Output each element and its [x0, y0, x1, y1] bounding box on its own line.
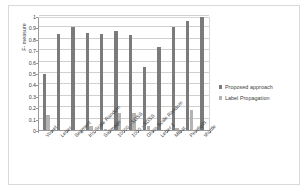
legend-swatch-icon	[219, 85, 222, 88]
bar-proposed-approach	[71, 27, 74, 130]
y-axis-tick-label: 0.9	[18, 25, 36, 31]
bar-group	[182, 18, 196, 130]
chart-figure: F- measure 00.10.20.30.40.50.60.70.80.91…	[0, 0, 308, 192]
chart-legend: Proposed approachLabel Propagation	[219, 83, 301, 105]
bar-proposed-approach	[200, 17, 203, 130]
y-axis-tick-label: 0.6	[18, 60, 36, 66]
legend-item: Proposed approach	[219, 83, 301, 91]
y-axis-tick-label: 0.7	[18, 48, 36, 54]
bar-group	[68, 18, 82, 130]
bar-proposed-approach	[43, 74, 46, 130]
bars-layer	[39, 18, 209, 130]
y-axis-tick-labels: 00.10.20.30.40.50.60.70.80.91	[18, 13, 36, 131]
x-axis-tick-mark	[38, 131, 39, 133]
bar-proposed-approach	[186, 21, 189, 130]
bar-group	[39, 18, 53, 130]
plot-area	[38, 17, 210, 131]
bar-proposed-approach	[100, 34, 103, 130]
y-axis-tick-label: 0.5	[18, 71, 36, 77]
bar-group	[53, 18, 67, 130]
bar-proposed-approach	[57, 34, 60, 130]
bar-group	[197, 18, 211, 130]
legend-label: Label Propagation	[225, 95, 270, 101]
legend-label: Proposed approach	[225, 84, 273, 90]
y-axis-tick-label: 0.3	[18, 94, 36, 100]
y-axis-tick-label: 0.4	[18, 82, 36, 88]
legend-item: Label Propagation	[219, 94, 301, 102]
gridline	[39, 15, 209, 16]
y-axis-tick-label: 1	[18, 14, 36, 20]
y-axis-tick-label: 0.1	[18, 117, 36, 123]
y-axis-tick-label: 0	[18, 128, 36, 134]
legend-swatch-icon	[219, 96, 222, 99]
bar-proposed-approach	[129, 35, 132, 130]
bar-proposed-approach	[114, 31, 117, 130]
bar-proposed-approach	[86, 33, 89, 130]
y-axis-tick-label: 0.8	[18, 37, 36, 43]
x-axis-tick-labels: VowelLetterSegmentIris Scale RandomSatim…	[38, 134, 238, 186]
y-axis-tick-label: 0.2	[18, 105, 36, 111]
bar-label-propagation	[190, 110, 193, 130]
bar-group	[82, 18, 96, 130]
